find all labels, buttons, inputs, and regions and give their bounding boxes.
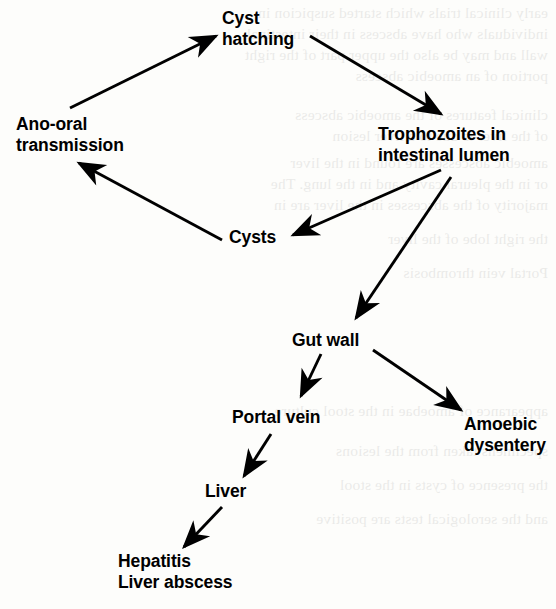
node-label-line: Portal vein xyxy=(232,407,320,428)
node-portal-vein: Portal vein xyxy=(232,407,320,428)
arrow-cyst-hatching-to-trophozoites xyxy=(310,36,441,114)
node-ano-oral: Ano-oraltransmission xyxy=(16,114,124,155)
node-amoebic-dysentery: Amoebicdysentery xyxy=(464,414,546,455)
arrow-layer xyxy=(0,0,556,609)
node-label-line: Hepatitis xyxy=(118,551,232,572)
node-label-line: Cysts xyxy=(229,227,276,248)
arrow-portal-vein-to-liver xyxy=(244,434,271,476)
node-label-line: Amoebic xyxy=(464,414,546,435)
node-label-line: hatching xyxy=(222,29,294,50)
node-cysts: Cysts xyxy=(229,227,276,248)
diagram-canvas: early clinical trials which started susp… xyxy=(0,0,556,609)
node-label-line: dysentery xyxy=(464,435,546,456)
arrow-trophozoites-to-gut-wall xyxy=(356,177,451,318)
node-liver: Liver xyxy=(205,481,246,502)
node-label-line: Cyst xyxy=(222,8,294,29)
node-gut-wall: Gut wall xyxy=(292,330,359,351)
node-label-line: Ano-oral xyxy=(16,114,124,135)
node-label-line: Trophozoites in xyxy=(378,124,510,145)
node-label-line: Liver xyxy=(205,481,246,502)
arrow-gut-wall-to-amoebic-dysentery xyxy=(373,350,461,410)
node-cyst-hatching: Cysthatching xyxy=(222,8,294,49)
arrow-liver-to-hepatitis xyxy=(184,507,222,547)
node-label-line: Liver abscess xyxy=(118,572,232,593)
node-label-line: Gut wall xyxy=(292,330,359,351)
arrow-ano-oral-to-cyst-hatching xyxy=(70,36,216,108)
node-label-line: transmission xyxy=(16,135,124,156)
node-trophozoites: Trophozoites inintestinal lumen xyxy=(378,124,510,165)
node-label-line: intestinal lumen xyxy=(378,145,510,166)
arrow-gut-wall-to-portal-vein xyxy=(301,354,321,396)
node-hepatitis: HepatitisLiver abscess xyxy=(118,551,232,592)
arrow-cysts-to-ano-oral xyxy=(79,163,222,240)
